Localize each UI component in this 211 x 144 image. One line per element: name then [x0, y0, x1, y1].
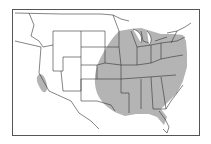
us-range-map	[13, 10, 200, 136]
southwest-range-area	[37, 74, 47, 92]
map-frame	[12, 9, 200, 136]
